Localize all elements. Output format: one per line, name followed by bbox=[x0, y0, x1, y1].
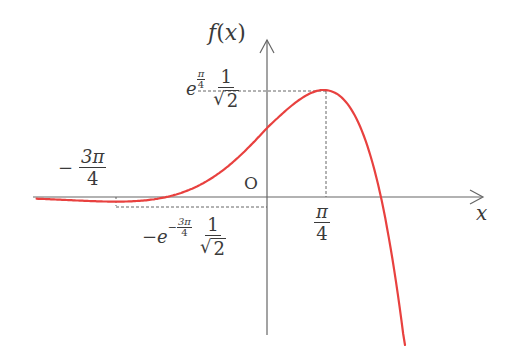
min-y-label: − e − 3π4 1 √2 bbox=[142, 216, 226, 258]
x-axis-label: x bbox=[476, 203, 487, 223]
origin-label: O bbox=[244, 175, 258, 192]
min-y-fraction: 1 √2 bbox=[200, 216, 226, 258]
max-y-e: e bbox=[186, 80, 197, 98]
max-x-label: π4 bbox=[314, 203, 330, 243]
min-x-label: − 3π4 bbox=[58, 148, 106, 188]
y-label-paren-close: ) bbox=[237, 20, 246, 45]
max-y-exponent: π4 bbox=[197, 69, 206, 90]
y-label-f: f bbox=[208, 20, 216, 45]
max-y-fraction: 1 √2 bbox=[213, 68, 239, 110]
max-y-label: e π4 1 √2 bbox=[186, 68, 239, 110]
min-y-exponent: − 3π4 bbox=[168, 217, 192, 238]
y-label-paren-open: ( bbox=[216, 20, 225, 45]
y-label-x: x bbox=[225, 20, 237, 45]
min-y-e: e bbox=[157, 228, 168, 246]
y-axis-label: f(x) bbox=[208, 22, 246, 44]
